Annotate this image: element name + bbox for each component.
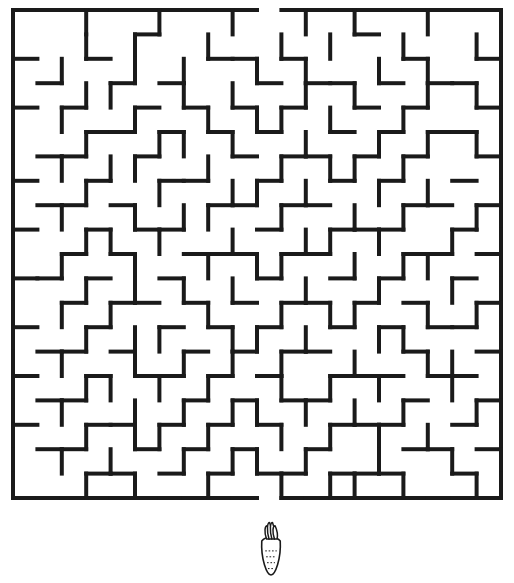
maze-background <box>0 0 514 583</box>
maze-canvas <box>0 0 514 583</box>
carrot-leaf-3 <box>273 526 277 539</box>
maze-svg <box>0 0 514 583</box>
maze-wall-group <box>13 10 501 498</box>
maze-page <box>0 0 514 583</box>
